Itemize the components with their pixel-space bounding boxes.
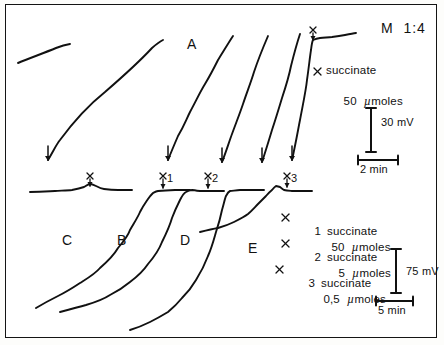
upper-arrowhead-48 — [45, 156, 51, 161]
upper-arrowhead-292 — [289, 156, 295, 161]
lower-marker-3 — [284, 173, 290, 188]
upper-trace-2 — [168, 36, 233, 160]
scale-top-voltage-label: 30 mV — [381, 116, 414, 129]
legend-cross-2 — [282, 240, 289, 247]
upper-trace-0 — [18, 44, 70, 63]
trace-label-D: D — [180, 232, 191, 249]
upper-anno-cross — [314, 68, 321, 75]
lower-marker-number-3: 3 — [291, 172, 297, 185]
upper-arrowhead-168 — [165, 156, 171, 161]
trace-label-B: B — [117, 232, 127, 249]
legend-cross-1 — [282, 214, 289, 221]
trace-label-E: E — [248, 240, 258, 257]
trace-label-A: A — [187, 36, 197, 53]
lower-trace-C-baseline — [30, 184, 132, 192]
legend-cross-3 — [276, 266, 283, 273]
scale-top-time-label: 2 min — [360, 163, 388, 176]
upper-trace-4 — [262, 34, 300, 162]
lower-marker-number-1: 1 — [167, 172, 173, 185]
lower-marker-2 — [205, 173, 211, 189]
legend-row-3-amount: 0,5µmoles — [303, 278, 386, 320]
scale-bottom-voltage-label: 75 mV — [406, 265, 439, 278]
lower-marker-1 — [160, 173, 166, 189]
upper-amount-value: 50 — [344, 95, 357, 107]
upper-arrowhead-262 — [259, 158, 265, 163]
figure-header: M 1:4 — [381, 20, 426, 37]
upper-trace-1 — [48, 40, 163, 160]
lower-marker-number-2: 2 — [212, 172, 218, 185]
trace-label-C: C — [62, 232, 73, 249]
upper-annotation-substance: succinate — [326, 64, 376, 78]
lower-trace-C — [36, 190, 190, 308]
upper-amount-unit: moles — [371, 95, 403, 107]
scale-bottom-time-label: 5 min — [378, 304, 406, 317]
upper-trace-3 — [222, 36, 268, 162]
upper-arrowhead-222 — [219, 158, 225, 163]
legend-3-unit: moles — [354, 293, 386, 305]
legend-3-amount: 0,5 — [323, 293, 340, 305]
lower-markers — [87, 173, 290, 189]
figure-canvas: M 1:4 A succinate 50µmoles 30 mV 2 min 1… — [0, 0, 444, 345]
